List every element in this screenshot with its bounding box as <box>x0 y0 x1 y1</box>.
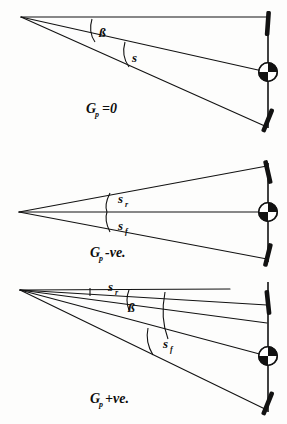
label-s-front-base-panel2: s <box>117 218 123 233</box>
caption-sub-panel1: p <box>94 110 99 119</box>
caption-rest-panel1: =0 <box>102 101 117 116</box>
diagram-canvas: ß s G p =0 <box>0 0 287 424</box>
steering-geometry-figure: ß s G p =0 <box>0 0 287 424</box>
centre-of-mass-symbol-panel3 <box>259 347 277 365</box>
label-beta-panel1: ß <box>98 25 106 40</box>
label-s-front-base-panel3: s <box>162 336 168 351</box>
label-s-panel1: s <box>131 50 137 65</box>
label-s-rear-base-panel2: s <box>117 191 123 206</box>
centre-of-mass-symbol-panel1 <box>259 63 277 81</box>
label-beta-panel3: ß <box>127 300 135 315</box>
caption-rest-panel2: -ve. <box>105 245 126 260</box>
caption-sub-panel3: p <box>98 400 103 409</box>
caption-sub-panel2: p <box>98 254 103 263</box>
caption-rest-panel3: +ve. <box>105 391 129 406</box>
label-s-rear-base-panel3: s <box>107 279 113 294</box>
centre-of-mass-symbol-panel2 <box>259 203 277 221</box>
